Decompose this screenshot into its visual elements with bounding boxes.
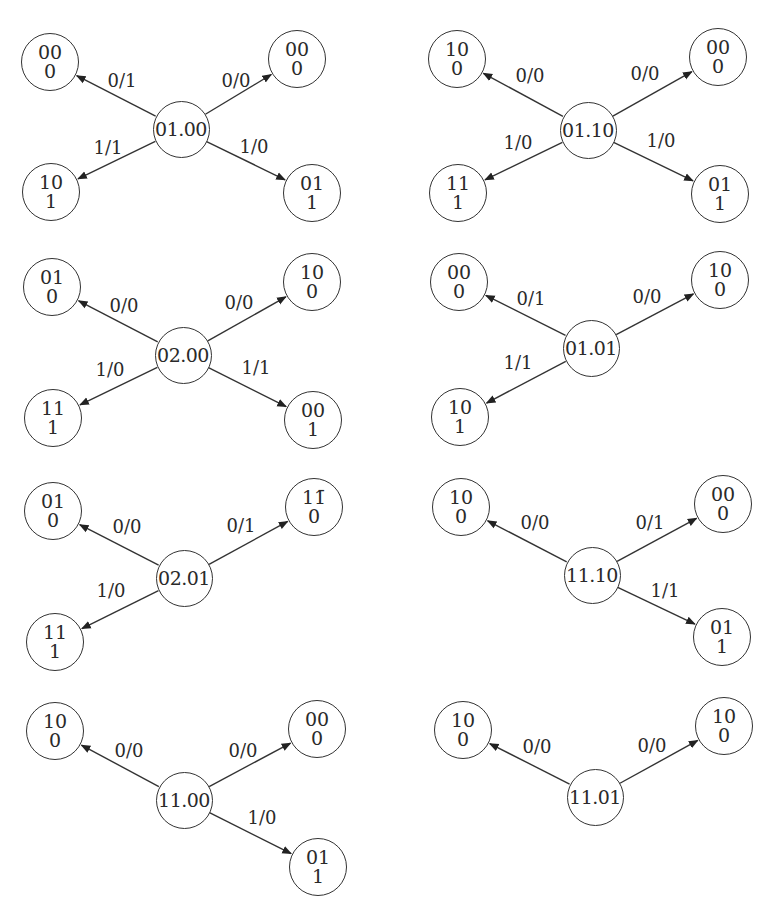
- target-state-node: 111: [26, 613, 84, 671]
- transition-label: 1/0: [240, 136, 269, 157]
- transition-label: 1/1: [94, 137, 123, 158]
- transition-label: 0/0: [521, 512, 550, 533]
- target-state-bottom: 0: [311, 729, 323, 748]
- target-state-bottom: 0: [457, 730, 469, 749]
- target-state-bottom: 0: [714, 280, 726, 299]
- target-state-bottom: 1: [45, 192, 57, 211]
- target-state-node: 100: [432, 478, 490, 536]
- target-state-node: 011: [283, 164, 341, 222]
- target-state-bottom: 1: [454, 417, 466, 436]
- target-state-node: 101: [431, 388, 489, 446]
- target-state-node: 000: [694, 475, 752, 533]
- transition-label: 0/0: [115, 740, 144, 761]
- state-label: 11.00: [158, 791, 210, 810]
- target-state-bottom: 1: [716, 637, 728, 656]
- target-state-bottom: 0: [718, 726, 730, 745]
- transition-label: 1/0: [97, 580, 126, 601]
- target-state-node: 011: [691, 165, 749, 223]
- target-state-bottom: 0: [712, 57, 724, 76]
- transition-label: 0/0: [110, 295, 139, 316]
- transition-label: 0/0: [229, 740, 258, 761]
- state-label: 01.10: [562, 121, 614, 140]
- state-node-11-10: 11.10: [564, 547, 621, 604]
- target-state-node: 100: [695, 697, 753, 755]
- target-state-node: 111: [24, 389, 82, 447]
- target-state-node: 010: [24, 482, 82, 540]
- target-state-node: 100: [428, 30, 486, 88]
- state-label: 01.00: [155, 120, 207, 139]
- transition-label: 0/0: [113, 516, 142, 537]
- target-state-bottom: 1: [452, 193, 464, 212]
- transition-label: 0/0: [631, 63, 660, 84]
- target-state-bottom: 1: [312, 867, 324, 886]
- state-label: 02.01: [158, 569, 210, 588]
- state-node-01-01: 01.01: [563, 320, 620, 377]
- target-state-bottom: 0: [47, 511, 59, 530]
- target-state-bottom: 1: [307, 420, 319, 439]
- transition-label: 0/0: [638, 735, 667, 756]
- target-state-node: 100: [691, 251, 749, 309]
- target-state-node: 100: [26, 702, 84, 760]
- state-node-11-00: 11.00: [156, 772, 213, 829]
- target-state-node: 101: [22, 163, 80, 221]
- target-state-bottom: 0: [46, 287, 58, 306]
- state-diagram-canvas: 01.000000/10000/01011/10111/001.101000/0…: [0, 0, 780, 908]
- target-state-node: 001: [284, 391, 342, 449]
- transition-label: 0/1: [227, 515, 256, 536]
- transition-label: 1/1: [651, 580, 680, 601]
- target-state-node: 000: [288, 700, 346, 758]
- target-state-node: 100: [434, 701, 492, 759]
- transition-label: 0/1: [517, 288, 546, 309]
- target-state-bottom: 1: [714, 194, 726, 213]
- state-label: 02.00: [157, 346, 209, 365]
- transition-label: 0/0: [516, 65, 545, 86]
- target-state-bottom: 0: [455, 507, 467, 526]
- transition-label: 0/0: [633, 286, 662, 307]
- target-state-bottom: 0: [451, 59, 463, 78]
- target-state-node: 011: [289, 838, 347, 896]
- target-state-bottom: 0: [453, 282, 465, 301]
- target-state-node: 100: [283, 253, 341, 311]
- state-node-01-00: 01.00: [153, 101, 210, 158]
- transition-label: 0/1: [636, 512, 665, 533]
- target-state-node: 111: [429, 164, 487, 222]
- transition-label: 1/0: [647, 130, 676, 151]
- transition-label: 1/0: [248, 807, 277, 828]
- state-node-02-00: 02.00: [155, 327, 212, 384]
- target-state-node: 000: [430, 253, 488, 311]
- target-state-node: 11̄0: [285, 478, 343, 536]
- transition-label: 1/0: [504, 132, 533, 153]
- state-node-02-01: 02.01: [156, 550, 213, 607]
- transition-label: 0/0: [523, 736, 552, 757]
- transition-label: 0/1: [108, 70, 137, 91]
- target-state-node: 000: [689, 28, 747, 86]
- transition-label: 1/1: [242, 357, 271, 378]
- target-state-bottom: 0: [49, 731, 61, 750]
- transition-label: 1/0: [96, 359, 125, 380]
- target-state-bottom: 1: [49, 642, 61, 661]
- target-state-node: 000: [21, 33, 79, 91]
- target-state-node: 010: [23, 258, 81, 316]
- target-state-bottom: 1: [47, 418, 59, 437]
- transition-label: 1/1: [504, 352, 533, 373]
- state-label: 01.01: [565, 339, 617, 358]
- target-state-bottom: 0: [291, 59, 303, 78]
- state-label: 11.10: [566, 566, 618, 585]
- target-state-node: 000: [268, 30, 326, 88]
- target-state-bottom: 1: [306, 193, 318, 212]
- target-state-bottom: 0: [44, 62, 56, 81]
- state-label: 11.01: [569, 788, 621, 807]
- target-state-bottom: 0: [308, 507, 320, 526]
- target-state-bottom: 0: [306, 282, 318, 301]
- transition-label: 0/0: [225, 292, 254, 313]
- target-state-node: 011: [693, 608, 751, 666]
- transition-label: 0/0: [222, 70, 251, 91]
- target-state-bottom: 0: [717, 504, 729, 523]
- state-node-11-01: 11.01: [567, 769, 624, 826]
- state-node-01-10: 01.10: [560, 102, 617, 159]
